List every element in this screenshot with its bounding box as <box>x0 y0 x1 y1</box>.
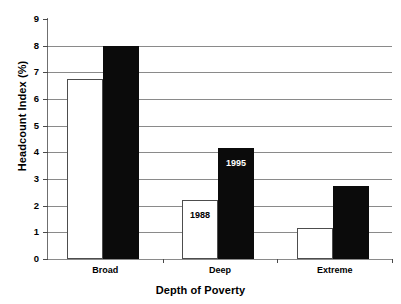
y-axis-tick-label: 7 <box>24 67 39 77</box>
category-label-extreme: Extreme <box>295 266 375 275</box>
bar-value-label: 1988 <box>190 211 210 220</box>
y-axis-tick-label: 3 <box>24 174 39 184</box>
y-axis-title: Headcount Index (%) <box>16 36 28 196</box>
gridline <box>48 72 392 73</box>
x-axis-tick-mark <box>163 259 164 263</box>
y-axis-tick-label: 2 <box>24 201 39 211</box>
y-axis-tick-label: 1 <box>24 227 39 237</box>
plot-area: 19881995 <box>48 19 392 259</box>
gridline <box>48 46 392 47</box>
bar-chart: Headcount Index (%) 0123456789 19881995 … <box>0 0 401 304</box>
bar-broad-1995 <box>103 46 139 259</box>
y-axis-tick-label: 8 <box>24 41 39 51</box>
y-axis-tick-label: 6 <box>24 94 39 104</box>
x-axis-title: Depth of Poverty <box>0 284 401 296</box>
bar-extreme-1995 <box>333 186 369 259</box>
category-label-deep: Deep <box>180 266 260 275</box>
y-axis-tick-label: 4 <box>24 147 39 157</box>
gridline <box>48 259 392 260</box>
bar-extreme-1988 <box>297 228 333 259</box>
y-axis-tick-label: 9 <box>24 14 39 24</box>
x-axis-tick-mark <box>277 259 278 263</box>
category-label-broad: Broad <box>65 266 145 275</box>
bar-deep-1988 <box>182 200 218 259</box>
y-axis-tick-label: 5 <box>24 121 39 131</box>
x-axis-tick-mark <box>392 259 393 263</box>
bar-value-label: 1995 <box>226 159 246 168</box>
y-axis-tick-label: 0 <box>24 254 39 264</box>
bar-broad-1988 <box>67 79 103 259</box>
